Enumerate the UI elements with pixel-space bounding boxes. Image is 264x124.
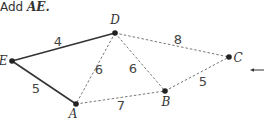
node-e [9, 58, 15, 64]
edge-weight-ea: 5 [32, 81, 40, 96]
edge-ed [12, 33, 115, 61]
edge-weight-db: 6 [129, 61, 137, 76]
edge-weight-da: 6 [95, 62, 103, 77]
edge-weight-bc: 5 [199, 74, 207, 89]
node-a [73, 101, 79, 107]
arrow-left-icon [250, 68, 264, 71]
caption-prefix: Add [0, 0, 27, 14]
edge-dc [115, 33, 229, 57]
node-label-e: E [0, 54, 8, 68]
caption-variable: AE. [26, 0, 50, 14]
edges [12, 33, 229, 104]
node-label-b: B [161, 95, 171, 109]
edge-ea [12, 61, 76, 104]
edge-weight-dc: 8 [174, 32, 182, 47]
node-b [162, 88, 168, 94]
edge-bc [165, 57, 229, 91]
node-d [112, 30, 118, 36]
nodes [9, 30, 232, 107]
edge-weight-ed: 4 [54, 34, 62, 49]
edge-weights: 4566875 [32, 32, 207, 113]
node-label-c: C [233, 51, 242, 65]
node-label-a: A [68, 107, 78, 121]
graph-diagram: Add AE. 4566875 DEABC [0, 0, 264, 124]
node-c [226, 54, 232, 60]
caption: Add AE. [0, 0, 50, 14]
edge-db [115, 33, 165, 91]
node-label-d: D [109, 13, 120, 27]
edge-weight-ab: 7 [117, 98, 125, 113]
